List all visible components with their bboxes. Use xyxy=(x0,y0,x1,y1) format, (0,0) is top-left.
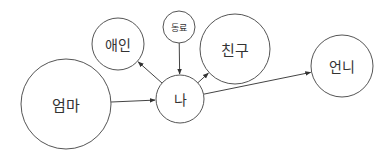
edge-mom-to-me xyxy=(111,100,155,102)
edge-me-to-lover xyxy=(138,62,162,83)
relationship-diagram xyxy=(0,0,392,162)
node-label-me: 나 xyxy=(174,89,187,109)
node-label-friend: 친구 xyxy=(221,39,249,60)
node-label-mom: 엄마 xyxy=(52,94,80,115)
node-label-coworker: 동료 xyxy=(171,21,187,34)
node-label-sister: 언니 xyxy=(329,56,355,76)
edge-me-to-friend xyxy=(198,73,209,83)
node-label-lover: 애인 xyxy=(105,34,131,54)
